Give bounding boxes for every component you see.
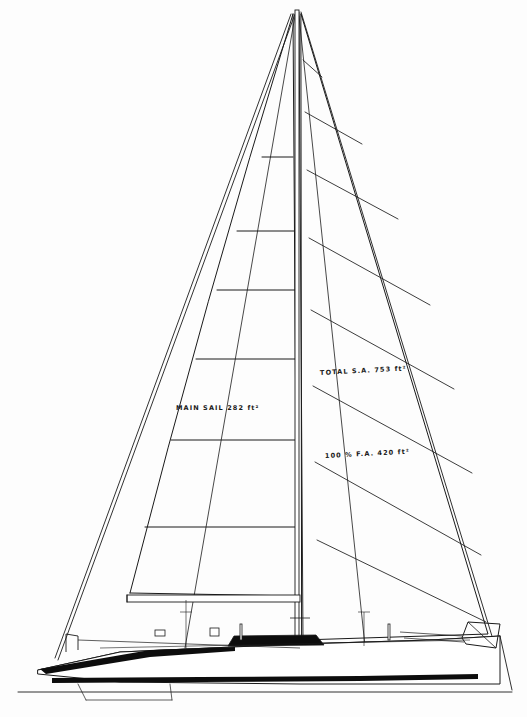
shroud	[185, 16, 295, 648]
boom	[127, 595, 300, 602]
genoa-seam	[309, 238, 430, 305]
mast-winch	[210, 628, 219, 636]
backstay	[301, 12, 495, 646]
bow-pulpit	[66, 634, 78, 652]
stanchion-mid	[240, 624, 242, 640]
transom-rake	[500, 636, 512, 690]
genoa-seam	[317, 540, 486, 622]
shroud	[299, 16, 365, 646]
genoa-seam	[311, 310, 454, 389]
mainsail-leech	[130, 14, 293, 593]
genoa-seam	[313, 386, 472, 473]
mast	[295, 10, 299, 648]
genoa-seam	[315, 462, 481, 555]
genoa-seam	[303, 60, 322, 77]
jibstay-luff	[58, 14, 295, 660]
stanchion-aft	[388, 624, 390, 640]
mainsail-area-label: MAIN SAIL 282 ft²	[176, 404, 259, 412]
sail-plan-drawing: MAIN SAIL 282 ft²TOTAL S.A. 753 ft²100 %…	[0, 0, 527, 717]
forward-hatch	[155, 630, 165, 636]
headstay-outer	[55, 14, 291, 658]
genoa-seam	[307, 170, 398, 219]
sail-plan-svg	[0, 0, 527, 717]
